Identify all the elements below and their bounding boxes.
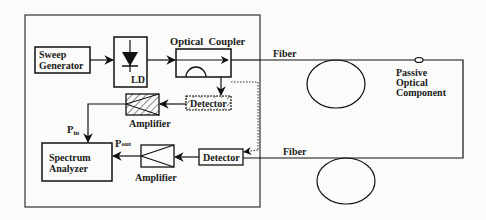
- dotted-reference-path: [231, 82, 258, 150]
- measurement-setup-diagram: Sweep Generator LD Optical Coupler Detec…: [0, 0, 486, 220]
- diode-icon: [122, 52, 138, 66]
- output-amplifier-label: Amplifier: [135, 172, 177, 183]
- laser-diode-block: LD: [114, 37, 147, 87]
- reference-amplifier-label: Amplifier: [129, 118, 171, 129]
- dotted-arrow-to-detector: [244, 150, 258, 152]
- fiber-coil-top: [307, 60, 365, 108]
- reference-detector-block: Detector: [186, 96, 231, 110]
- fiber-label-bottom: Fiber: [283, 146, 307, 157]
- sweep-generator-label-line1: Sweep: [39, 49, 67, 60]
- passive-component-label-line3: Component: [396, 87, 447, 98]
- p-out-label: Pout: [115, 138, 132, 149]
- output-detector-block: Detector: [199, 149, 243, 165]
- optical-coupler-block: Optical Coupler: [170, 36, 246, 77]
- fiber-label-top: Fiber: [273, 48, 297, 59]
- fiber-coil-bottom: [317, 158, 375, 204]
- optical-coupler-label: Optical Coupler: [170, 36, 246, 47]
- passive-component-icon: [415, 58, 423, 63]
- sweep-generator-block: Sweep Generator: [35, 47, 90, 73]
- output-amplifier-block: Amplifier: [135, 145, 177, 183]
- spectrum-analyzer-label-line1: Spectrum: [49, 152, 91, 163]
- arrow-amplifier-to-analyzer-pin: [88, 104, 126, 142]
- output-detector-label: Detector: [203, 152, 240, 163]
- reference-detector-label: Detector: [190, 98, 227, 109]
- fiber-path: [243, 60, 463, 158]
- reference-amplifier-block: Amplifier: [126, 94, 171, 129]
- spectrum-analyzer-block: Spectrum Analyzer: [42, 143, 112, 181]
- spectrum-analyzer-label-line2: Analyzer: [49, 163, 88, 174]
- ld-label: LD: [131, 74, 145, 85]
- sweep-generator-label-line2: Generator: [39, 60, 84, 71]
- p-in-label: Pin: [67, 124, 79, 137]
